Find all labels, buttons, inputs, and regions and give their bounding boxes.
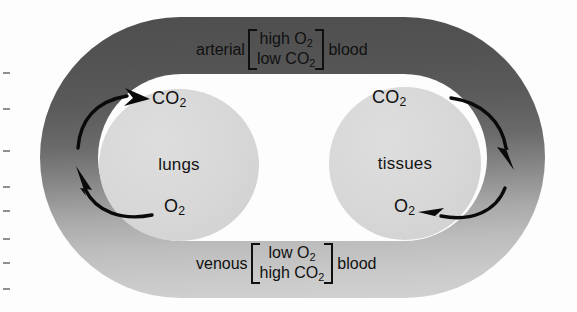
venous-line-1: low O2 [260, 244, 325, 264]
arterial-line-2-subscript: 2 [309, 56, 315, 68]
gas-label-lungs-co2-text: CO [152, 88, 179, 108]
arterial-bracket: high O2 low CO2 [248, 29, 325, 70]
venous-suffix: blood [334, 255, 376, 273]
gas-exchange-diagram: lungs tissues CO2 O2 CO2 O2 arterial hig… [0, 0, 577, 312]
arterial-blood-note: arterial high O2 low CO2 blood [196, 29, 368, 70]
arterial-line-1-text: high O [260, 30, 307, 47]
page-margin-tick [3, 210, 10, 212]
arterial-line-1: high O2 [257, 30, 316, 50]
gas-label-lungs-o2-subscript: 2 [178, 204, 185, 218]
gas-label-lungs-co2-subscript: 2 [179, 96, 186, 110]
venous-line-1-text: low O [268, 244, 309, 261]
arterial-line-1-subscript: 2 [307, 37, 313, 49]
page-margin-tick [3, 150, 10, 152]
gas-label-tissues-o2-subscript: 2 [408, 204, 415, 218]
gas-label-tissues-co2: CO2 [372, 87, 406, 109]
venous-line-2-text: high CO [260, 264, 319, 281]
venous-bracket: low O2 high CO2 [251, 243, 334, 284]
arterial-prefix: arterial [196, 41, 247, 59]
venous-line-1-subscript: 2 [309, 251, 315, 263]
page-margin-tick [3, 72, 10, 74]
page-margin-tick [3, 238, 10, 240]
gas-label-tissues-co2-text: CO [372, 87, 399, 107]
venous-line-2: high CO2 [260, 264, 325, 284]
page-margin-tick [3, 262, 10, 264]
gas-label-lungs-o2: O2 [164, 196, 185, 218]
page-margin-tick [3, 186, 10, 188]
gas-label-tissues-o2: O2 [394, 196, 415, 218]
page-margin-tick [3, 108, 10, 110]
page-margin-tick [3, 288, 10, 290]
arterial-line-2: low CO2 [257, 50, 316, 70]
venous-line-2-subscript: 2 [318, 270, 324, 282]
gas-label-lungs-o2-text: O [164, 196, 178, 216]
organ-lungs-label: lungs [158, 155, 200, 175]
venous-prefix: venous [196, 255, 250, 273]
gas-label-tissues-co2-subscript: 2 [399, 95, 406, 109]
gas-label-lungs-co2: CO2 [152, 88, 186, 110]
arterial-line-2-text: low CO [257, 50, 309, 67]
venous-blood-note: venous low O2 high CO2 blood [196, 243, 377, 284]
organ-lungs: lungs [99, 89, 259, 241]
arterial-suffix: blood [325, 41, 367, 59]
gas-label-tissues-o2-text: O [394, 196, 408, 216]
organ-tissues-label: tissues [378, 154, 432, 174]
